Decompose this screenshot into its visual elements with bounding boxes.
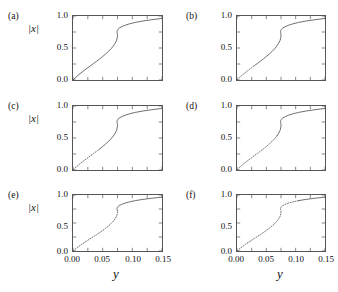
ytick-a-0: 0.0 (40, 74, 68, 84)
ytick-d-0: 0.0 (204, 164, 232, 174)
stable-branch (100, 108, 162, 148)
plot-svg-e (73, 195, 162, 251)
ytick-e-2: 1.0 (40, 189, 68, 199)
xtick-e-1: 0.05 (87, 254, 117, 264)
stable-branch (255, 18, 325, 65)
unstable-branch (237, 201, 299, 251)
ytick-a-1: 0.5 (40, 42, 68, 52)
ytick-f-2: 1.0 (204, 189, 232, 199)
plot-area-a (72, 15, 163, 81)
xtick-f-3: 0.15 (311, 254, 338, 264)
ytick-d-2: 1.0 (204, 100, 232, 110)
xtick-f-2: 0.10 (281, 254, 311, 264)
plot-area-f (236, 194, 326, 252)
figure-bifurcation-grid: (a) |x| 1.0 0.5 0.0 (b) 1.0 0.5 0.0 (c) … (0, 0, 338, 292)
ytick-c-2: 1.0 (40, 100, 68, 110)
axis-label-y-a: |x| (28, 22, 39, 34)
stable-branch (277, 108, 325, 136)
plot-svg-c (73, 106, 162, 170)
ytick-e-1: 0.5 (40, 221, 68, 231)
plot-area-b (236, 15, 326, 81)
panel-label-c: (c) (8, 101, 19, 111)
ytick-f-1: 0.5 (204, 221, 232, 231)
ytick-d-1: 0.5 (204, 132, 232, 142)
stable-branch (299, 197, 325, 200)
plot-svg-f (237, 195, 325, 251)
unstable-branch (237, 136, 277, 170)
xtick-e-3: 0.15 (148, 254, 178, 264)
panel-label-f: (f) (186, 190, 196, 200)
axis-label-y-e: |x| (28, 201, 39, 213)
plot-area-c (72, 105, 163, 171)
ytick-c-1: 0.5 (40, 132, 68, 142)
axis-label-x-f: y (277, 266, 283, 282)
response-curve (73, 18, 162, 80)
plot-area-e (72, 194, 163, 252)
plot-area-d (236, 105, 326, 171)
panel-label-a: (a) (8, 11, 19, 21)
ytick-a-2: 1.0 (40, 10, 68, 20)
xtick-f-1: 0.05 (251, 254, 281, 264)
xtick-e-0: 0.00 (57, 254, 87, 264)
ytick-c-0: 0.0 (40, 164, 68, 174)
panel-label-d: (d) (186, 101, 197, 111)
plot-svg-a (73, 16, 162, 80)
xtick-e-2: 0.10 (118, 254, 148, 264)
ytick-b-2: 1.0 (204, 10, 232, 20)
panel-label-b: (b) (186, 11, 197, 21)
axis-label-y-c: |x| (28, 112, 39, 124)
unstable-branch (73, 211, 118, 251)
panel-label-e: (e) (8, 190, 19, 200)
axis-label-x-e: y (113, 266, 119, 282)
unstable-branch (73, 149, 100, 170)
ytick-b-1: 0.5 (204, 42, 232, 52)
plot-svg-b (237, 16, 325, 80)
ytick-b-0: 0.0 (204, 74, 232, 84)
plot-svg-d (237, 106, 325, 170)
xtick-f-0: 0.00 (221, 254, 251, 264)
stable-branch (117, 197, 162, 210)
